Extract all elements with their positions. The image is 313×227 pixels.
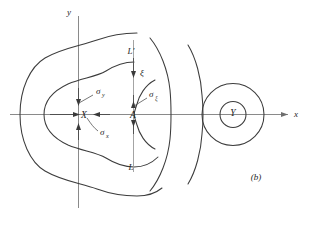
curve-label-l: L [127, 162, 133, 172]
figure-panel-b: y x X A Y L′ L ξ σ y σ x σ ξ ( [0, 0, 313, 227]
sigma-x-base: σ [100, 127, 105, 137]
field-label-xi: ξ [140, 68, 144, 78]
curve-label-l-prime: L′ [127, 46, 136, 56]
sigma-x-arrow-head-below [76, 123, 81, 130]
sigma-x-leader [87, 118, 98, 131]
xi-arrow-head-upper [131, 71, 136, 78]
x-axis-label: x [293, 109, 298, 119]
sigma-y-leader [79, 95, 93, 103]
sigma-y-base: σ [96, 86, 101, 96]
sigma-xi-leader [134, 98, 147, 106]
a-arrow-head-above [131, 101, 136, 108]
sigma-xi-subscript: ξ [155, 94, 158, 102]
field-label-sigma-x: σ x [100, 127, 109, 139]
vertical-line-through-a-group [131, 40, 136, 172]
sigma-xi-base: σ [149, 89, 154, 99]
point-label-y: Y [230, 108, 237, 118]
y-axis-label: y [66, 7, 71, 17]
x-axis-arrowhead [281, 112, 288, 117]
figure-caption: (b) [251, 172, 262, 182]
point-label-x: X [80, 110, 88, 120]
field-label-sigma-y: σ y [96, 86, 105, 98]
diagram-canvas: y x X A Y L′ L ξ σ y σ x σ ξ ( [0, 0, 313, 227]
field-label-sigma-xi: σ ξ [149, 89, 158, 102]
point-label-a: A [129, 110, 136, 120]
a-arrow-head-below [131, 120, 136, 127]
axis-group [10, 16, 288, 208]
sigma-y-subscript: y [101, 91, 105, 98]
sigma-x-arrow-head-right [93, 112, 100, 117]
sigma-x-subscript: x [105, 132, 109, 139]
